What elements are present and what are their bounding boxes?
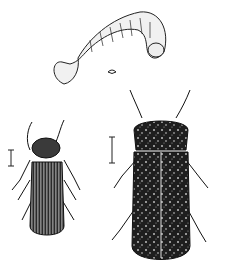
scale-bar-right	[109, 137, 115, 163]
small-beetle	[12, 120, 80, 235]
scale-bar-left	[8, 150, 14, 166]
larva	[54, 12, 166, 84]
large-beetle	[112, 90, 208, 260]
beetle-illustration	[0, 0, 236, 273]
